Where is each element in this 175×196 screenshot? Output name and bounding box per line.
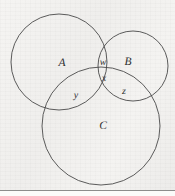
bottom-margin-strip xyxy=(0,191,175,196)
circle-b-outline xyxy=(98,31,168,101)
venn-diagram-canvas xyxy=(0,0,175,196)
bottom-rule xyxy=(0,190,175,191)
region-w-label: w xyxy=(100,57,107,68)
venn-diagram-figure: A B C w x y z xyxy=(0,0,175,196)
region-x-label: x xyxy=(102,73,106,84)
region-z-label: z xyxy=(122,86,126,97)
circle-c-label: C xyxy=(99,120,107,132)
region-y-label: y xyxy=(74,90,78,101)
circle-a-label: A xyxy=(58,57,65,69)
circle-b-label: B xyxy=(124,56,131,68)
